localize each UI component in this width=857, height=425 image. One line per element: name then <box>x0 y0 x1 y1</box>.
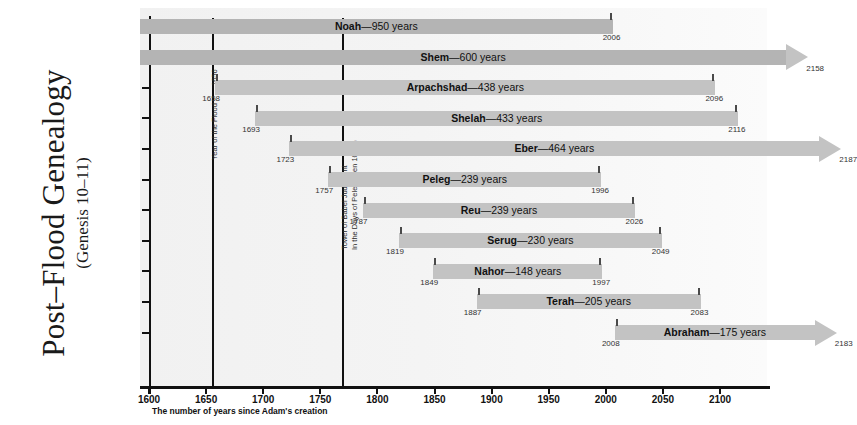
x-axis-tick-label: 1600 <box>138 394 160 405</box>
x-axis-tick <box>719 386 721 394</box>
x-axis-tick <box>319 386 321 394</box>
x-axis-tick <box>605 386 607 394</box>
y-axis-line <box>149 16 151 394</box>
x-axis-tick-label: 1750 <box>309 394 331 405</box>
x-axis-tick <box>434 386 436 394</box>
bar-start-marker <box>478 288 480 295</box>
bar-start-marker <box>256 105 258 112</box>
y-axis-tick <box>142 332 151 334</box>
bar-start-year: 1723 <box>276 155 294 164</box>
bar-start-marker <box>216 74 218 81</box>
bar-end-marker <box>598 166 600 173</box>
bar-label: Terah—205 years <box>477 294 701 309</box>
bar-end-year: 1996 <box>591 186 609 195</box>
bar-start-marker <box>364 197 366 204</box>
bar-start-marker <box>434 258 436 265</box>
bar-label: Arpachshad—438 years <box>215 80 715 95</box>
bar-end-marker <box>735 105 737 112</box>
y-axis-tick <box>142 209 151 211</box>
y-axis-tick <box>142 270 151 272</box>
bar-start-marker <box>329 166 331 173</box>
page-title: Post–Flood Genealogy <box>37 69 71 356</box>
bar-start-year: 1787 <box>350 217 368 226</box>
bar-label: Serug—230 years <box>399 233 662 248</box>
event-sublabel: In the Days of Peleg (Gen 10:25) <box>350 140 359 250</box>
x-axis-tick <box>262 386 264 394</box>
bar-end-year: 2183 <box>835 339 853 348</box>
x-axis-caption: The number of years since Adam's creatio… <box>152 406 328 416</box>
event-label: Year of the Flood <box>210 103 219 160</box>
bar-label: Reu—239 years <box>363 203 636 218</box>
x-axis-line <box>140 386 770 389</box>
bar-label: Abraham—175 years <box>615 325 815 340</box>
page-subtitle: (Genesis 10–11) <box>72 69 93 356</box>
bar-start-year: 2008 <box>602 339 620 348</box>
x-axis-tick <box>662 386 664 394</box>
bar-start-year: 1887 <box>464 308 482 317</box>
bar-end-marker <box>610 13 612 20</box>
x-axis-tick-label: 1700 <box>252 394 274 405</box>
bar-start-year: 1693 <box>242 125 260 134</box>
bar-start-year: 1849 <box>420 278 438 287</box>
bar-start-marker <box>400 227 402 234</box>
bar-start-marker <box>616 319 618 326</box>
x-axis-tick-label: 1850 <box>423 394 445 405</box>
y-axis-tick <box>142 148 151 150</box>
bar-label: Shelah—433 years <box>255 111 738 126</box>
x-axis-tick-label: 1950 <box>538 394 560 405</box>
bar-end-year: 2096 <box>705 94 723 103</box>
x-axis-tick <box>491 386 493 394</box>
x-axis-tick-label: 2050 <box>652 394 674 405</box>
bar-label: Eber—464 years <box>289 141 819 156</box>
x-axis-tick-label: 2100 <box>709 394 731 405</box>
x-axis-tick <box>205 386 207 394</box>
y-axis-tick <box>142 179 151 181</box>
y-axis-tick <box>142 240 151 242</box>
chart-title-block: Post–Flood Genealogy (Genesis 10–11) <box>0 0 130 425</box>
bar-end-year: 1997 <box>592 278 610 287</box>
bar-end-year: 2049 <box>652 247 670 256</box>
bar-end-year: 2158 <box>806 64 824 73</box>
arrow-right-icon <box>815 320 837 346</box>
arrow-right-icon <box>819 136 841 162</box>
timeline-plot: 1656Year of the FloodTower of Babel Judg… <box>140 8 770 388</box>
bar-end-year: 2083 <box>691 308 709 317</box>
x-axis-tick-label: 1650 <box>195 394 217 405</box>
bar-label: Noah—950 years <box>140 19 613 34</box>
bar-start-year: 1819 <box>386 247 404 256</box>
x-axis-tick-label: 1900 <box>480 394 502 405</box>
x-axis-tick-label: 2000 <box>595 394 617 405</box>
bar-end-year: 2187 <box>839 155 857 164</box>
bar-end-year: 2006 <box>603 33 621 42</box>
bar-end-marker <box>659 227 661 234</box>
x-axis-tick <box>548 386 550 394</box>
bar-start-year: 1757 <box>315 186 333 195</box>
x-axis-tick-label: 1800 <box>366 394 388 405</box>
bar-end-year: 2116 <box>728 125 745 134</box>
x-axis-tick <box>148 386 150 394</box>
bar-end-year: 2026 <box>625 217 643 226</box>
bar-label: Shem—600 years <box>140 50 786 65</box>
bar-end-marker <box>698 288 700 295</box>
bar-end-marker <box>632 197 634 204</box>
bar-label: Peleg—239 years <box>328 172 601 187</box>
chart-title-rotated: Post–Flood Genealogy (Genesis 10–11) <box>37 69 93 356</box>
y-axis-tick <box>142 301 151 303</box>
y-axis-tick <box>142 117 151 119</box>
y-axis-tick <box>142 87 151 89</box>
x-axis-tick <box>376 386 378 394</box>
bar-end-marker <box>712 74 714 81</box>
bar-start-year: 1658 <box>202 94 220 103</box>
bar-start-marker <box>290 135 292 142</box>
bar-end-marker <box>599 258 601 265</box>
bar-label: Nahor—148 years <box>433 264 602 279</box>
arrow-right-icon <box>786 44 808 70</box>
